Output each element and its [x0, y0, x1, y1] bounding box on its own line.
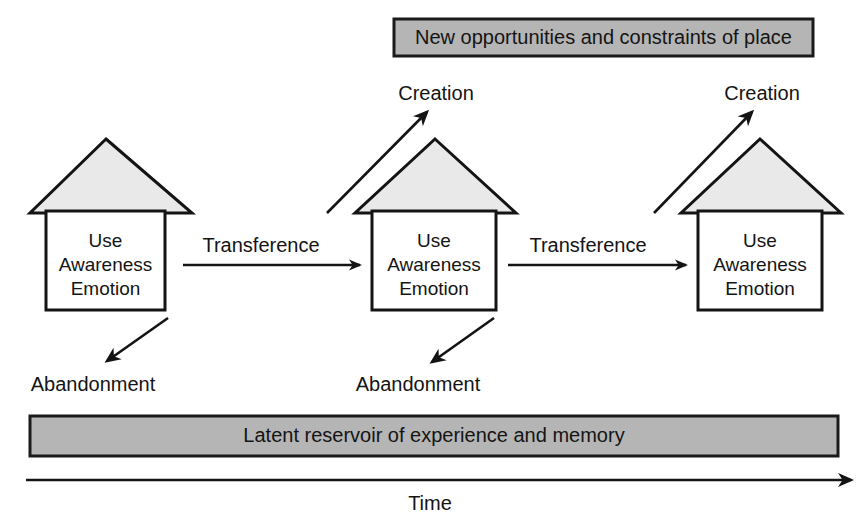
transference-2: Transference	[508, 234, 686, 265]
house-3-line-1: Use	[743, 230, 777, 251]
house-3-line-3: Emotion	[725, 278, 795, 299]
abandonment-1: Abandonment	[31, 318, 168, 395]
house-2: Use Awareness Emotion	[355, 139, 516, 310]
new-opportunities-banner: New opportunities and constraints of pla…	[394, 19, 813, 56]
house-1: Use Awareness Emotion	[30, 139, 192, 310]
house-3-roof	[681, 139, 841, 213]
creation-label-2: Creation	[398, 82, 474, 104]
new-opportunities-banner-label: New opportunities and constraints of pla…	[415, 26, 792, 48]
house-3-line-2: Awareness	[713, 254, 807, 275]
place-lifecycle-diagram: New opportunities and constraints of pla…	[0, 0, 860, 517]
time-axis: Time	[26, 480, 851, 514]
house-2-line-2: Awareness	[387, 254, 481, 275]
house-1-line-1: Use	[89, 230, 123, 251]
house-3: Use Awareness Emotion	[681, 139, 841, 310]
abandonment-2-arrow	[432, 318, 494, 362]
latent-reservoir-bar-label: Latent reservoir of experience and memor…	[243, 424, 624, 446]
house-1-line-3: Emotion	[71, 278, 141, 299]
creation-label-3: Creation	[724, 82, 800, 104]
latent-reservoir-bar: Latent reservoir of experience and memor…	[30, 416, 838, 456]
house-2-roof	[355, 139, 516, 213]
house-2-line-1: Use	[417, 230, 451, 251]
abandonment-1-label: Abandonment	[31, 373, 156, 395]
abandonment-1-arrow	[107, 318, 168, 361]
house-2-line-3: Emotion	[399, 278, 469, 299]
house-1-line-2: Awareness	[59, 254, 153, 275]
diagram-canvas: New opportunities and constraints of pla…	[0, 0, 860, 517]
transference-1-label: Transference	[202, 234, 319, 256]
abandonment-2: Abandonment	[356, 318, 494, 395]
house-1-roof	[30, 139, 192, 213]
transference-2-label: Transference	[529, 234, 646, 256]
time-axis-label: Time	[408, 492, 452, 514]
abandonment-2-label: Abandonment	[356, 373, 481, 395]
transference-1: Transference	[183, 234, 360, 265]
